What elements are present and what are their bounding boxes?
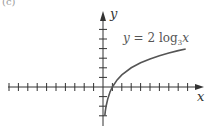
x-axis-label: x: [197, 89, 204, 104]
y-axis-arrow-icon: [100, 11, 106, 21]
eq-var: x: [182, 31, 189, 45]
log-curve: [105, 49, 186, 116]
chart-figure: (c) y x y = 2 log3x: [0, 0, 206, 132]
curve-equation-label: y = 2 log3x: [123, 31, 189, 47]
plot-area: [0, 0, 206, 132]
eq-body: = 2 log: [130, 31, 178, 45]
y-axis-label: y: [110, 6, 117, 21]
eq-lhs: y: [123, 31, 130, 45]
